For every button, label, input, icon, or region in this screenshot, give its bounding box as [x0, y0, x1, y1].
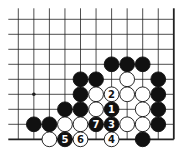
black-stone-move-7: 7: [89, 117, 104, 132]
black-stone-move-5: 5: [58, 132, 73, 147]
white-stone: [120, 87, 135, 102]
white-stone: [42, 132, 57, 147]
star-points: [32, 93, 36, 97]
black-stone: [104, 57, 119, 72]
stone-circle: [135, 87, 150, 102]
white-stone-move-4: 4: [104, 132, 119, 147]
black-stone: [151, 117, 166, 132]
stone-circle: [26, 117, 41, 132]
star-point: [32, 93, 36, 97]
move-number-label: 5: [61, 134, 68, 145]
stone-circle: [151, 117, 166, 132]
stone-circle: [89, 72, 104, 87]
stone-circle: [151, 87, 166, 102]
white-stone-move-6: 6: [73, 132, 88, 147]
white-stone: [89, 102, 104, 117]
white-stone: [120, 117, 135, 132]
stone-circle: [89, 87, 104, 102]
black-stone: [73, 102, 88, 117]
move-number-label: 7: [93, 119, 100, 130]
stone-circle: [42, 117, 57, 132]
black-stone: [73, 72, 88, 87]
stone-circle: [135, 102, 150, 117]
black-stone: [135, 132, 150, 147]
white-stone-move-2: 2: [104, 87, 119, 102]
black-stone-move-1: 1: [104, 102, 119, 117]
black-stone-move-3: 3: [104, 117, 119, 132]
stone-circle: [58, 102, 73, 117]
black-stone: [26, 117, 41, 132]
black-stone: [73, 87, 88, 102]
white-stone: [135, 102, 150, 117]
black-stone: [151, 102, 166, 117]
stone-circle: [89, 102, 104, 117]
move-number-label: 1: [108, 104, 115, 115]
black-stone: [58, 102, 73, 117]
stone-circle: [73, 87, 88, 102]
white-stone: [89, 87, 104, 102]
white-stone: [135, 117, 150, 132]
black-stone: [151, 72, 166, 87]
stone-circle: [135, 117, 150, 132]
stone-circle: [42, 132, 57, 147]
stone-circle: [73, 117, 88, 132]
black-stone: [42, 117, 57, 132]
white-stone: [135, 87, 150, 102]
stone-circle: [58, 117, 73, 132]
stone-circle: [120, 87, 135, 102]
black-stone: [89, 72, 104, 87]
stone-circle: [151, 102, 166, 117]
stone-circle: [120, 57, 135, 72]
white-stone: [120, 72, 135, 87]
stone-circle: [120, 72, 135, 87]
go-board: 2173564: [0, 0, 183, 155]
black-stone: [151, 87, 166, 102]
stone-circle: [151, 72, 166, 87]
stone-circle: [120, 117, 135, 132]
stone-circle: [73, 72, 88, 87]
white-stone: [73, 117, 88, 132]
black-stone: [135, 57, 150, 72]
black-stone: [120, 57, 135, 72]
move-number-label: 6: [77, 134, 84, 145]
stone-circle: [104, 57, 119, 72]
move-number-label: 2: [108, 89, 115, 100]
move-number-label: 4: [108, 134, 115, 145]
white-stone: [58, 117, 73, 132]
stone-circle: [135, 132, 150, 147]
stone-circle: [73, 102, 88, 117]
move-number-label: 3: [108, 119, 115, 130]
stone-circle: [135, 57, 150, 72]
